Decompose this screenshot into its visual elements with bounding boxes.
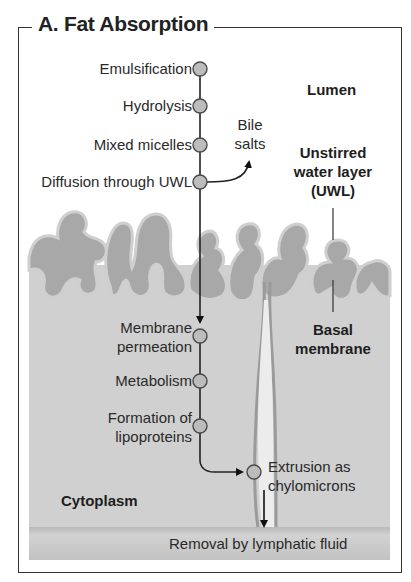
basal-line: membrane: [290, 339, 376, 358]
uwl-line: Unstirred: [285, 143, 381, 162]
step-label-lipoproteins: Formation of lipoproteins: [108, 408, 192, 446]
region-label-uwl: Unstirred water layer (UWL): [285, 143, 381, 200]
bile-salts-line: Bile: [232, 115, 268, 134]
step-label-membrane-permeation: Membrane permeation: [117, 318, 192, 356]
step-label-line: Extrusion as: [268, 457, 356, 476]
node-membrane-permeation: [193, 329, 207, 343]
bile-salts-arrow: [206, 162, 249, 182]
uwl-line: water layer: [285, 162, 381, 181]
region-label-lumen: Lumen: [307, 80, 356, 99]
region-label-cytoplasm: Cytoplasm: [61, 491, 138, 510]
uwl-line: (UWL): [285, 181, 381, 200]
step-label-line: Formation of: [108, 408, 192, 427]
step-label-line: Membrane: [117, 318, 192, 337]
villi-membrane: [29, 212, 390, 301]
step-label-diffusion-uwl: Diffusion through UWL: [41, 172, 192, 191]
node-mixed-micelles: [193, 138, 207, 152]
bile-salts-line: salts: [232, 134, 268, 153]
bile-salts-label: Bile salts: [232, 115, 268, 153]
node-hydrolysis: [193, 99, 207, 113]
node-emulsification: [193, 62, 207, 76]
step-label-mixed-micelles: Mixed micelles: [94, 135, 192, 154]
region-label-basal-membrane: Basal membrane: [290, 320, 376, 358]
lymphatic-removal-label: Removal by lymphatic fluid: [169, 534, 347, 553]
basal-line: Basal: [290, 320, 376, 339]
node-extrusion: [247, 465, 261, 479]
step-label-hydrolysis: Hydrolysis: [123, 96, 192, 115]
step-label-metabolism: Metabolism: [115, 371, 192, 390]
step-label-emulsification: Emulsification: [99, 59, 192, 78]
step-label-line: lipoproteins: [108, 427, 192, 446]
node-lipoproteins: [193, 419, 207, 433]
step-label-line: permeation: [117, 337, 192, 356]
step-label-extrusion: Extrusion as chylomicrons: [268, 457, 356, 495]
node-metabolism: [193, 374, 207, 388]
step-label-line: chylomicrons: [268, 476, 356, 495]
node-diffusion-uwl: [193, 175, 207, 189]
